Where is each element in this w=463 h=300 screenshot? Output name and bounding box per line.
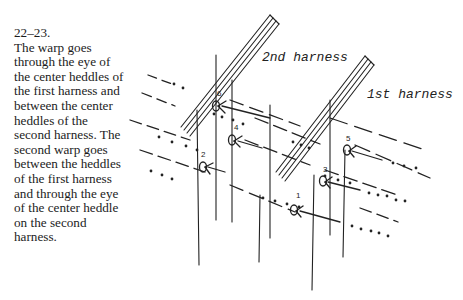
heddle-eye-3 [320,176,361,190]
heddle-eye-5 [344,145,383,160]
loom-harness-diagram: 2nd harness 1st harness 1 2 3 4 5 6 [0,0,463,300]
heddle-number-5: 5 [346,134,351,143]
harness-bar-second [181,15,279,136]
harness-bar-first [276,56,374,181]
heddle-number-2: 2 [201,150,206,159]
heddle-number-3: 3 [323,165,328,174]
heddle-eye-2 [200,162,226,174]
heddle-number-1: 1 [296,191,301,200]
heddle-eye-4 [229,135,263,148]
heddle-eyes [200,101,383,222]
heddle-number-4: 4 [234,123,239,132]
label-first-harness: 1st harness [367,87,453,102]
heddle-number-6: 6 [217,89,222,98]
label-second-harness: 2nd harness [262,50,348,65]
